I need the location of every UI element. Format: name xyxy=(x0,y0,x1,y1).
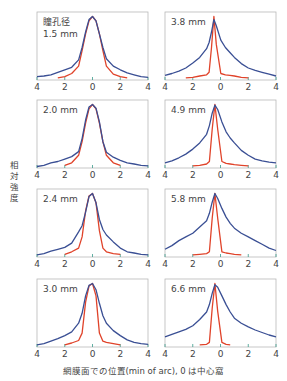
x-tick-label: 2 xyxy=(117,170,123,180)
pupil-diameter-label: 5.8 mm xyxy=(171,194,206,204)
x-tick-label: 2 xyxy=(245,82,251,92)
x-tick-label: 2 xyxy=(245,170,251,180)
x-tick-label: 2 xyxy=(117,82,123,92)
x-tick-label: 4 xyxy=(34,170,40,180)
panel-7: 3.0 mm42024 xyxy=(34,279,151,359)
x-tick-label: 2 xyxy=(62,170,68,180)
panel-1: 瞳孔径1.5 mm42024 xyxy=(34,12,151,92)
x-tick-label: 2 xyxy=(62,82,68,92)
x-tick-label: 2 xyxy=(62,259,68,269)
panel-2: 3.8 mm42024 xyxy=(162,12,279,92)
x-tick-label: 2 xyxy=(62,349,68,359)
x-tick-label: 2 xyxy=(190,82,196,92)
x-tick-label: 2 xyxy=(245,349,251,359)
panel-8: 6.6 mm42024 xyxy=(162,279,279,359)
figure: 瞳孔径1.5 mm420243.8 mm420242.0 mm420244.9 … xyxy=(0,0,287,381)
x-tick-label: 2 xyxy=(245,259,251,269)
y-axis-label-text: 相対強度 xyxy=(8,160,20,204)
x-tick-label: 4 xyxy=(145,349,151,359)
x-tick-label: 0 xyxy=(218,82,224,92)
x-tick-label: 0 xyxy=(218,170,224,180)
x-tick-label: 2 xyxy=(117,259,123,269)
x-tick-label: 0 xyxy=(90,259,96,269)
x-tick-label: 4 xyxy=(34,82,40,92)
y-axis-label: 相対強度 xyxy=(8,160,20,204)
x-tick-label: 2 xyxy=(190,170,196,180)
panel-4: 4.9 mm42024 xyxy=(162,100,279,180)
pupil-diameter-value: 1.5 mm xyxy=(43,29,78,39)
x-tick-label: 0 xyxy=(218,259,224,269)
x-tick-label: 2 xyxy=(190,349,196,359)
x-axis-label: 網膜面での位置(min of arc), 0 は中心窩 xyxy=(0,364,287,376)
pupil-diameter-label: 3.0 mm xyxy=(43,284,78,294)
x-tick-label: 4 xyxy=(34,349,40,359)
x-tick-label: 4 xyxy=(34,259,40,269)
x-tick-label: 0 xyxy=(90,349,96,359)
x-tick-label: 0 xyxy=(90,82,96,92)
x-tick-label: 4 xyxy=(273,170,279,180)
x-tick-label: 4 xyxy=(273,349,279,359)
panel-3: 2.0 mm42024 xyxy=(34,100,151,180)
x-tick-label: 4 xyxy=(273,259,279,269)
x-tick-label: 4 xyxy=(145,259,151,269)
pupil-diameter-label: 2.4 mm xyxy=(43,194,78,204)
x-tick-label: 4 xyxy=(145,82,151,92)
x-tick-label: 4 xyxy=(162,259,168,269)
panel-6: 5.8 mm42024 xyxy=(162,189,279,269)
x-tick-label: 0 xyxy=(90,170,96,180)
x-tick-label: 4 xyxy=(162,170,168,180)
pupil-diameter-label: 2.0 mm xyxy=(43,105,78,115)
pupil-diameter-label: 4.9 mm xyxy=(171,105,206,115)
x-tick-label: 4 xyxy=(162,82,168,92)
x-tick-label: 4 xyxy=(273,82,279,92)
x-tick-label: 2 xyxy=(117,349,123,359)
x-tick-label: 4 xyxy=(162,349,168,359)
pupil-diameter-label: 6.6 mm xyxy=(171,284,206,294)
pupil-diameter-label: 3.8 mm xyxy=(171,17,206,27)
x-tick-label: 0 xyxy=(218,349,224,359)
x-tick-label: 4 xyxy=(145,170,151,180)
pupil-diameter-label: 瞳孔径 xyxy=(43,16,70,27)
x-tick-label: 2 xyxy=(190,259,196,269)
panel-5: 2.4 mm42024 xyxy=(34,189,151,269)
